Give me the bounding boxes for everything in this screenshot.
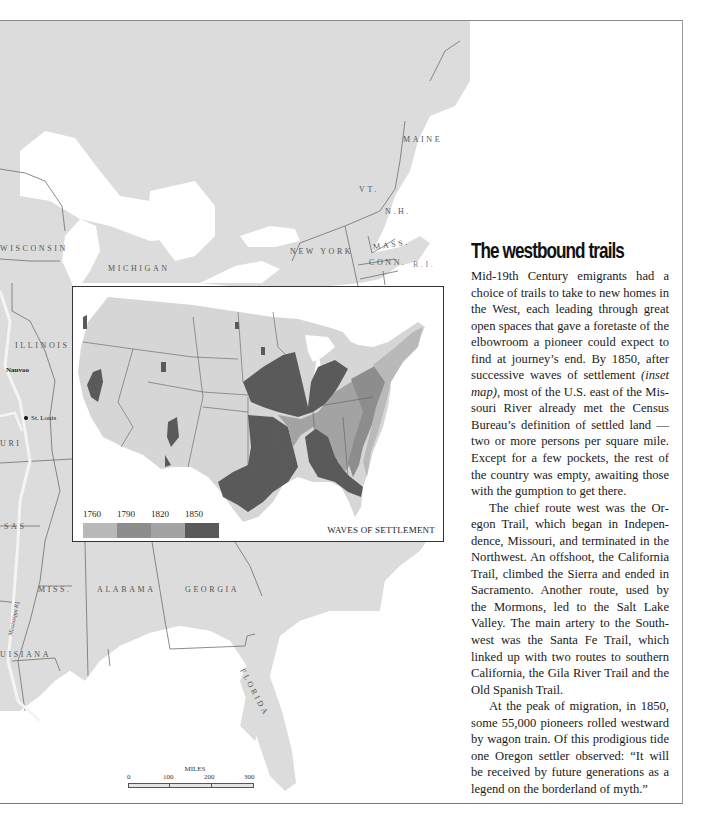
city-dot-icon [24, 416, 28, 420]
scale-title: MILES [134, 765, 256, 773]
label-michigan: MICHIGAN [108, 264, 170, 273]
legend-year-1790: 1790 [117, 509, 151, 521]
label-new-york: NEW YORK [290, 247, 353, 256]
legend-color-bar [83, 523, 219, 538]
settlement-inset-map: 1760 1790 1820 1850 WAVES OF SETTLEMENT [72, 286, 444, 542]
legend-swatch-1760 [83, 523, 117, 538]
label-ri: R.I. [413, 260, 435, 269]
legend-swatch-1790 [117, 523, 151, 538]
paragraph-1-text-a: Mid-19th Century emigrants had a choice … [471, 269, 669, 382]
article-paragraph-2: The chief route west was the Or­egon Tra… [471, 500, 669, 699]
scale-tick-200: 200 [204, 773, 215, 781]
scale-ticks: 0 100 200 300 [126, 773, 256, 783]
label-nh: N.H. [385, 207, 411, 216]
label-conn: CONN. [369, 258, 407, 267]
scale-tick-100: 100 [163, 773, 174, 781]
legend-year-1820: 1820 [151, 509, 185, 521]
label-miss: MISS. [38, 585, 72, 594]
label-arkansas: SAS [4, 522, 26, 531]
legend-year-1760: 1760 [83, 509, 117, 521]
label-georgia: GEORGIA [185, 585, 239, 594]
label-louisiana: UISIANA [0, 650, 51, 659]
article-paragraph-3: At the peak of migration, in 1850, some … [471, 698, 669, 797]
scale-bar: MILES 0 100 200 300 [126, 765, 256, 788]
article-paragraph-1: Mid-19th Century emigrants had a choice … [471, 268, 669, 500]
scale-tick-0: 0 [127, 773, 131, 781]
inset-title: WAVES OF SETTLEMENT [327, 525, 435, 535]
label-illinois: ILLINOIS [15, 341, 70, 350]
city-st-louis-label: St. Louis [31, 414, 56, 422]
scale-tick-300: 300 [244, 773, 255, 781]
settlement-legend: 1760 1790 1820 1850 [83, 509, 219, 538]
city-nauvoo: Nauvoo [6, 366, 29, 374]
label-alabama: ALABAMA [97, 585, 156, 594]
us-settlement-map [73, 287, 442, 540]
label-vt: VT. [359, 185, 379, 194]
label-missouri: URI [0, 439, 22, 448]
legend-year-1850: 1850 [185, 509, 219, 521]
article-headline: The westbound trails [471, 238, 625, 264]
legend-years: 1760 1790 1820 1850 [83, 509, 219, 521]
scale-bar-graphic [128, 783, 254, 788]
article: The westbound trails Mid-19th Century em… [471, 238, 669, 798]
legend-swatch-1820 [151, 523, 185, 538]
label-wisconsin: WISCONSIN [0, 244, 68, 253]
label-maine: MAINE [403, 135, 442, 144]
paragraph-1-text-b: most of the U.S. east of the Mis­souri R… [471, 385, 669, 498]
legend-swatch-1850 [185, 523, 219, 538]
city-st-louis: St. Louis [24, 414, 56, 422]
